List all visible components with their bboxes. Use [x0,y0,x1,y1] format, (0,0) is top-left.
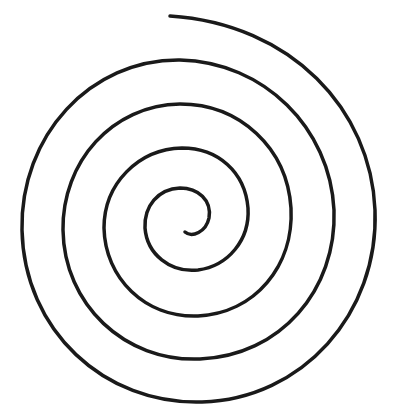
spiral-canvas [0,0,396,420]
spiral-line [22,16,375,402]
spiral-drawing [0,0,396,420]
